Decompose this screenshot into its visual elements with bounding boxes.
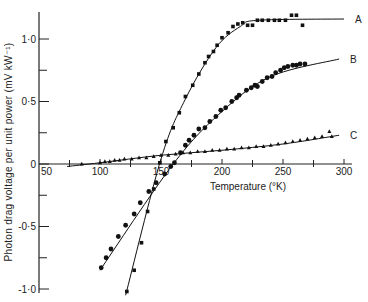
data-point xyxy=(187,138,192,143)
data-point xyxy=(273,18,277,22)
data-point xyxy=(285,64,290,69)
data-point xyxy=(278,18,282,22)
y-tick-label: -0·5 xyxy=(18,221,36,232)
data-point xyxy=(154,180,159,185)
y-tick-label: 1·0 xyxy=(22,34,37,45)
x-tick-label: 100 xyxy=(92,166,109,177)
data-point xyxy=(231,25,235,29)
data-point xyxy=(123,223,128,228)
data-point xyxy=(291,139,295,143)
x-tick-label: 50 xyxy=(41,166,53,177)
data-point xyxy=(103,159,107,163)
data-point xyxy=(226,31,230,35)
data-point xyxy=(172,160,177,165)
data-point xyxy=(236,22,240,26)
data-point xyxy=(241,21,245,25)
data-point xyxy=(207,55,211,59)
fit-line-c xyxy=(67,135,339,166)
data-point xyxy=(116,234,121,239)
data-point xyxy=(305,137,309,141)
data-point xyxy=(298,62,303,67)
data-point xyxy=(260,18,264,22)
data-point xyxy=(273,70,278,75)
data-point xyxy=(260,79,265,84)
y-tick-label: 0·5 xyxy=(22,96,37,107)
fit-line-a xyxy=(126,19,344,295)
data-point xyxy=(220,36,224,40)
data-point xyxy=(212,50,216,54)
y-tick-label: 0 xyxy=(30,159,36,170)
data-point xyxy=(99,265,104,270)
data-point xyxy=(109,247,114,252)
data-point xyxy=(207,119,212,124)
data-point xyxy=(290,13,294,17)
data-point xyxy=(184,95,188,99)
curve-label-b: B xyxy=(350,54,357,65)
data-point xyxy=(164,140,168,144)
data-point xyxy=(132,268,136,272)
data-point xyxy=(215,43,219,47)
data-point xyxy=(122,157,126,161)
series-group: ABC xyxy=(67,13,362,295)
data-point xyxy=(192,133,197,138)
photon-drag-chart: -1·0-0·500·51·050100150200250300 ABC Tem… xyxy=(0,0,368,302)
series-b: B xyxy=(99,54,357,271)
curve-label-c: C xyxy=(350,130,357,141)
data-point xyxy=(132,212,137,217)
data-point xyxy=(196,149,200,153)
data-point xyxy=(298,138,302,142)
data-point xyxy=(251,23,255,27)
data-point xyxy=(203,125,208,130)
data-point xyxy=(162,172,167,177)
data-point xyxy=(158,161,162,165)
data-point xyxy=(191,83,195,87)
data-point xyxy=(178,111,182,115)
data-point xyxy=(138,200,143,205)
data-point xyxy=(183,143,188,148)
x-tick-label: 250 xyxy=(275,166,292,177)
data-point xyxy=(225,147,229,151)
data-point xyxy=(303,62,308,67)
data-point xyxy=(256,18,260,22)
data-point xyxy=(255,84,260,89)
data-point xyxy=(214,114,219,119)
data-point xyxy=(254,144,258,148)
data-point xyxy=(237,93,242,98)
data-point xyxy=(284,18,288,22)
data-point xyxy=(320,134,324,138)
fit-line-b xyxy=(100,59,339,270)
data-point xyxy=(301,23,305,27)
data-point xyxy=(295,13,299,17)
data-point xyxy=(276,142,280,146)
data-point xyxy=(313,135,317,139)
data-point xyxy=(327,129,331,133)
data-point xyxy=(218,108,223,113)
data-point xyxy=(244,88,249,93)
data-point xyxy=(210,148,214,152)
y-axis-label: Photon drag voltage per unit power (mV k… xyxy=(3,43,14,262)
data-point xyxy=(146,189,151,194)
data-point xyxy=(240,145,244,149)
x-axis-label: Temperature (°K) xyxy=(210,181,286,192)
data-point xyxy=(171,126,175,130)
data-point xyxy=(229,99,234,104)
data-point xyxy=(113,158,117,162)
data-point xyxy=(197,72,201,76)
x-tick-label: 200 xyxy=(214,166,231,177)
data-point xyxy=(196,127,201,132)
data-point xyxy=(140,241,144,245)
data-point xyxy=(267,18,271,22)
y-tick-label: -1·0 xyxy=(18,284,36,295)
data-point xyxy=(246,23,250,27)
data-point xyxy=(125,290,129,294)
data-point xyxy=(283,140,287,144)
data-point xyxy=(168,164,173,169)
x-tick-label: 300 xyxy=(336,166,353,177)
data-point xyxy=(265,75,270,80)
curve-label-a: A xyxy=(355,14,362,25)
data-point xyxy=(104,255,109,260)
data-point xyxy=(270,74,275,79)
data-point xyxy=(146,210,150,214)
data-point xyxy=(223,105,228,110)
data-point xyxy=(203,61,207,65)
